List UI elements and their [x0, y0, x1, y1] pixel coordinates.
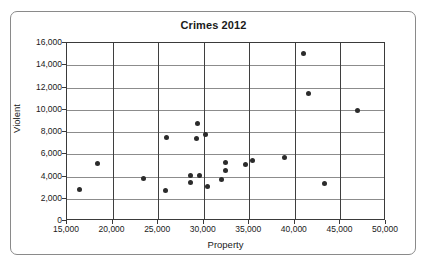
gridline-vertical [340, 43, 341, 219]
y-axis-tick-labels: 02,0004,0006,0008,00010,00012,00014,0001… [16, 42, 62, 220]
scatter-point [355, 108, 360, 113]
y-tickmark [62, 87, 66, 88]
gridline-horizontal [67, 177, 384, 178]
x-tickmark [157, 220, 158, 224]
y-tickmark [62, 153, 66, 154]
y-tickmark [62, 131, 66, 132]
y-tickmark [62, 64, 66, 65]
scatter-point [188, 180, 193, 185]
scatter-point [250, 158, 255, 163]
y-tickmark [62, 176, 66, 177]
y-tick-label: 0 [18, 216, 62, 225]
y-tick-label: 16,000 [18, 38, 62, 47]
scatter-point [223, 168, 228, 173]
y-tick-label: 6,000 [18, 149, 62, 158]
y-tick-label: 2,000 [18, 194, 62, 203]
x-tickmark [339, 220, 340, 224]
x-tickmark [203, 220, 204, 224]
gridline-horizontal [67, 199, 384, 200]
chart-figure: Crimes 2012 02,0004,0006,0008,00010,0001… [0, 0, 427, 266]
x-axis-tick-labels: 15,00020,00025,00030,00035,00040,00045,0… [66, 225, 385, 239]
scatter-point [197, 173, 202, 178]
y-tick-label: 14,000 [18, 60, 62, 69]
x-tickmark [385, 220, 386, 224]
scatter-point [306, 91, 311, 96]
scatter-point [243, 162, 248, 167]
x-tickmark [248, 220, 249, 224]
y-tick-label: 12,000 [18, 82, 62, 91]
y-tickmark [62, 198, 66, 199]
gridline-horizontal [67, 110, 384, 111]
gridline-horizontal [67, 88, 384, 89]
scatter-point [301, 51, 306, 56]
scatter-point [163, 188, 168, 193]
scatter-point [141, 176, 146, 181]
scatter-point [223, 160, 228, 165]
gridline-vertical [249, 43, 250, 219]
x-axis-label: Property [66, 239, 385, 250]
y-tickmark [62, 109, 66, 110]
scatter-point [95, 161, 100, 166]
scatter-point [188, 173, 193, 178]
scatter-point [203, 132, 208, 137]
gridline-horizontal [67, 132, 384, 133]
scatter-point [194, 136, 199, 141]
y-tick-label: 4,000 [18, 171, 62, 180]
y-axis-label: Violent [11, 79, 22, 159]
gridline-vertical [295, 43, 296, 219]
y-tickmark [62, 42, 66, 43]
x-tickmark [66, 220, 67, 224]
gridline-vertical [204, 43, 205, 219]
scatter-point [205, 184, 210, 189]
gridline-vertical [113, 43, 114, 219]
x-tickmark [112, 220, 113, 224]
scatter-point [164, 135, 169, 140]
scatter-point [77, 187, 82, 192]
gridline-horizontal [67, 65, 384, 66]
x-tickmark [294, 220, 295, 224]
y-tick-label: 8,000 [18, 127, 62, 136]
x-tick-label: 50,000 [357, 225, 413, 234]
gridline-horizontal [67, 154, 384, 155]
scatter-point [195, 121, 200, 126]
scatter-point [282, 155, 287, 160]
scatter-point [219, 177, 224, 182]
scatter-point [322, 181, 327, 186]
y-tick-label: 10,000 [18, 105, 62, 114]
chart-title: Crimes 2012 [0, 19, 427, 31]
gridline-vertical [158, 43, 159, 219]
plot-area [66, 42, 385, 220]
